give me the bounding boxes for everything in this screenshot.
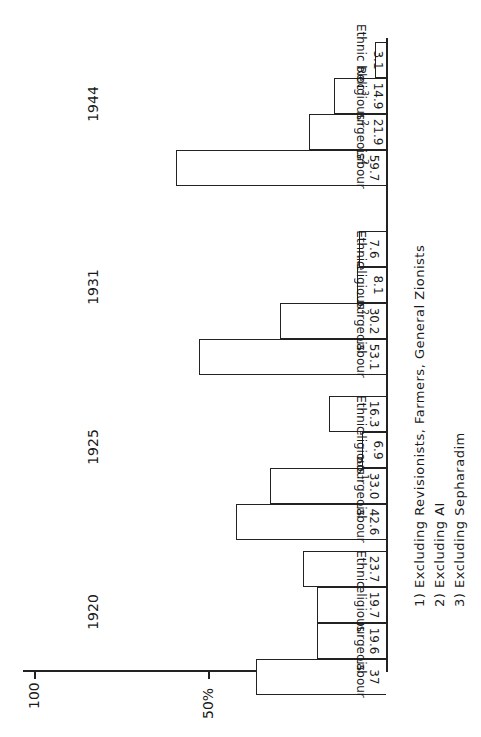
year-label-1931: 1931 bbox=[85, 269, 101, 305]
tick-label-100: 100 bbox=[26, 682, 42, 709]
year-label-1920: 1920 bbox=[85, 594, 101, 630]
tick-50 bbox=[208, 671, 210, 679]
bar-label: 7.6Ethnic bbox=[354, 209, 380, 289]
chart-stage: 100 50% 1920 1925 1931 1944 37Labour19.6… bbox=[0, 0, 481, 737]
year-label-1925: 1925 bbox=[85, 429, 101, 465]
baseline bbox=[386, 38, 388, 672]
tick-label-50: 50% bbox=[200, 688, 216, 719]
footnote-3: 3) Excluding Sepharadim bbox=[452, 432, 467, 607]
bar-label: 3.1Ethnic bloc3 bbox=[354, 20, 384, 100]
footnote-2: 2) Excluding AI bbox=[432, 502, 447, 607]
footnote-1: 1) Excluding Revisionists, Farmers, Gene… bbox=[412, 245, 427, 607]
tick-100 bbox=[34, 671, 36, 679]
year-label-1944: 1944 bbox=[85, 86, 101, 122]
